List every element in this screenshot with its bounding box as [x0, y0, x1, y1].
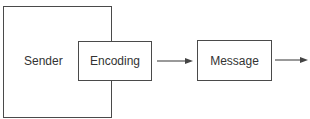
connector-arrows	[0, 0, 310, 119]
arrow-message-out	[275, 57, 308, 63]
arrow-encoding-to-message	[157, 58, 193, 64]
